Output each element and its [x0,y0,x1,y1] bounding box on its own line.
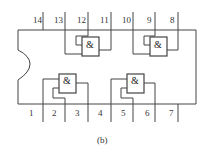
gate-lower-left-symbol: & [63,75,71,86]
pin-label-3: 3 [75,108,80,118]
gate-upper-left-symbol: & [86,39,94,50]
gate-upper-right-symbol: & [154,39,162,50]
pin-label-10: 10 [122,15,132,25]
pin-label-4: 4 [98,108,103,118]
pin-label-8: 8 [170,15,175,25]
pin-label-14: 14 [33,15,43,25]
ic-pinout-diagram: 14 13 12 11 10 9 8 1 2 3 4 5 6 7 & & & &… [0,0,209,157]
pin-label-5: 5 [121,108,126,118]
pin-label-6: 6 [145,108,150,118]
pin-label-1: 1 [29,108,34,118]
pin-label-7: 7 [169,108,174,118]
figure-caption: (b) [97,135,108,145]
pin-label-12: 12 [77,15,86,25]
gate-lower-right-symbol: & [131,75,139,86]
chip-outline [18,30,196,104]
pin-label-11: 11 [100,15,109,25]
pin-label-2: 2 [52,108,57,118]
pin-label-13: 13 [54,15,64,25]
pin-label-9: 9 [147,15,152,25]
